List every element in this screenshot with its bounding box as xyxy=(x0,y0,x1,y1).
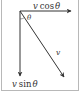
vector-diagram: vcosθ θ v vsinθ xyxy=(0,0,82,96)
vertical-component-label: vsinθ xyxy=(12,79,38,89)
angle-arc xyxy=(20,18,24,19)
horizontal-component-label: vcosθ xyxy=(33,1,60,11)
angle-label: θ xyxy=(27,14,32,22)
velocity-label: v xyxy=(56,48,61,57)
